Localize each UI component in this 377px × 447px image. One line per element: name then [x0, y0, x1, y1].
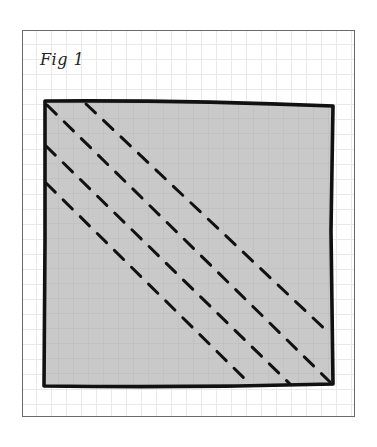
figure-diagram [0, 0, 377, 447]
